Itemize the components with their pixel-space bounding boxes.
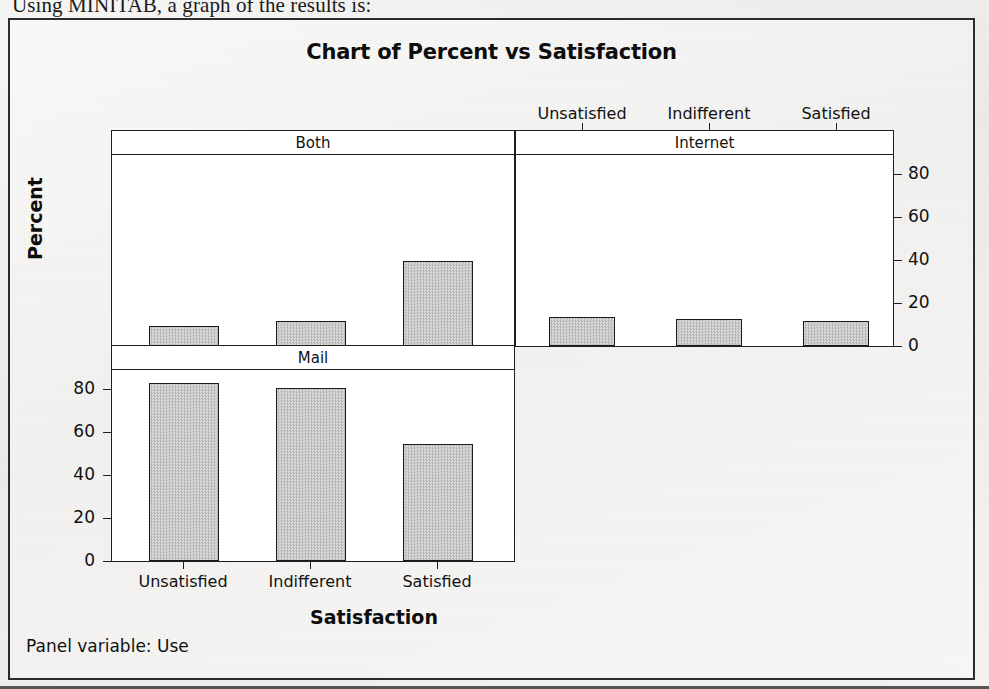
ytick-left-0 [103,561,111,562]
ylabel-left-0: 0 [63,550,95,570]
panel-variable-note: Panel variable: Use [26,636,189,656]
bar-mail-indifferent [276,388,346,561]
ytick-right-0 [894,346,902,347]
ytick-right-40 [894,260,902,261]
panel-internet-header: Internet [516,131,893,155]
page-body-text: Using MINITAB, a graph of the results is… [12,0,371,18]
panel-mail-plot [112,370,514,561]
ylabel-left-60: 60 [63,421,95,441]
ytick-right-20 [894,303,902,304]
panel-both-header: Both [112,131,514,155]
ytick-left-20 [103,518,111,519]
panel-both-label: Both [296,134,331,152]
ylabel-left-20: 20 [63,507,95,527]
bar-both-satisfied [403,261,473,346]
top-category-label-unsatisfied: Unsatisfied [537,104,626,123]
ytick-left-60 [103,432,111,433]
bar-both-unsatisfied [149,326,219,346]
ytick-left-40 [103,475,111,476]
bar-both-indifferent [276,321,346,346]
bar-internet-satisfied [803,321,869,346]
top-category-label-indifferent: Indifferent [668,104,751,123]
ytick-right-60 [894,217,902,218]
bottom-xtick-2 [310,562,311,569]
bar-internet-indifferent [676,319,742,346]
panel-both-plot [112,155,514,346]
ylabel-right-60: 60 [908,206,930,226]
ylabel-left-80: 80 [63,378,95,398]
ylabel-right-0: 0 [908,335,919,355]
ylabel-right-80: 80 [908,163,930,183]
bottom-category-label-indifferent: Indifferent [269,572,352,591]
bottom-category-label-unsatisfied: Unsatisfied [138,572,227,591]
ylabel-right-40: 40 [908,249,930,269]
x-axis-title: Satisfaction [310,606,438,628]
panel-internet: Internet [515,130,894,347]
ylabel-left-40: 40 [63,464,95,484]
minitab-figure: Chart of Percent vs Satisfaction Unsatis… [8,18,975,680]
panel-mail-label: Mail [298,349,328,367]
panel-internet-plot [516,155,893,346]
chart-title: Chart of Percent vs Satisfaction [10,40,973,64]
panel-mail-header: Mail [112,346,514,370]
bottom-xtick-1 [183,562,184,569]
ytick-right-80 [894,174,902,175]
top-category-label-satisfied: Satisfied [801,104,870,123]
panel-mail: Mail [111,345,515,562]
panel-both: Both [111,130,515,347]
ytick-left-80 [103,389,111,390]
top-xtick-3 [836,123,837,130]
bar-mail-unsatisfied [149,383,219,561]
top-xtick-2 [709,123,710,130]
ylabel-right-20: 20 [908,292,930,312]
bar-mail-satisfied [403,444,473,561]
bottom-category-label-satisfied: Satisfied [402,572,471,591]
panel-internet-label: Internet [675,134,735,152]
top-xtick-1 [582,123,583,130]
y-axis-title: Percent [24,177,46,260]
bar-internet-unsatisfied [549,317,615,346]
bottom-xtick-3 [437,562,438,569]
